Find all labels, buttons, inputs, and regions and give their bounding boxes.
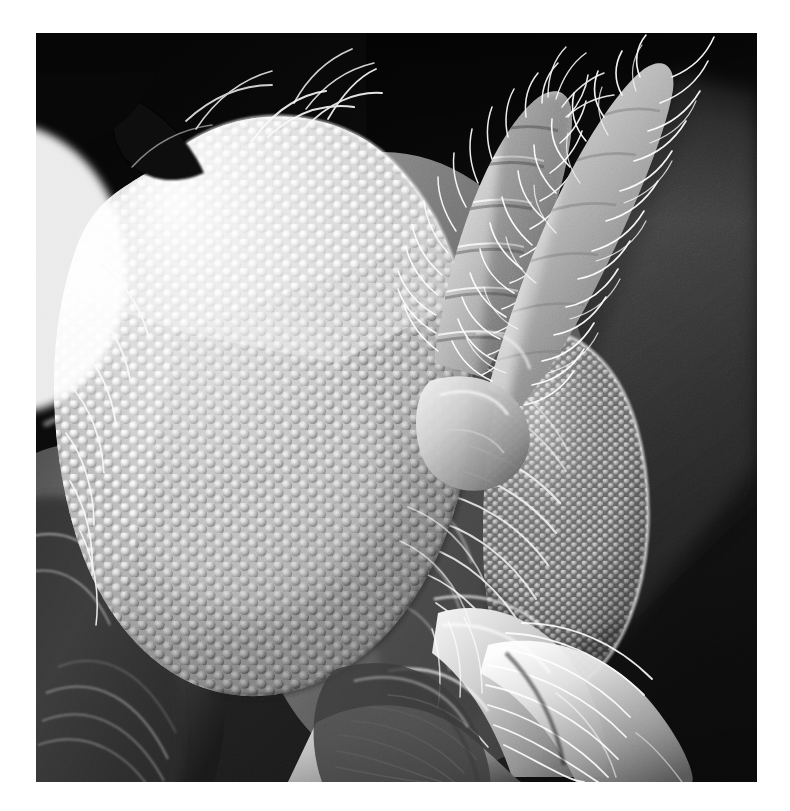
sem-photograph xyxy=(36,33,757,782)
sem-photograph-canvas xyxy=(36,33,757,782)
photo-grain-overlay xyxy=(36,33,757,782)
page-root xyxy=(0,0,790,811)
